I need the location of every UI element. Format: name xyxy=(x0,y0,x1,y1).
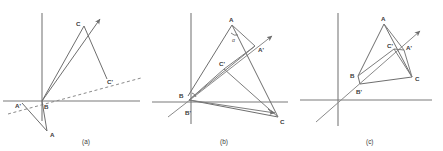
panel-c: A A' B B' C C' (c) xyxy=(300,13,432,146)
panel-b-label-A-prime: A' xyxy=(258,46,264,53)
panel-a-mirror-line xyxy=(8,78,141,114)
panel-c-segment-B-Cprime xyxy=(358,49,394,76)
panel-b-segment-B-Cprime xyxy=(189,69,224,100)
panel-a-label-B: B xyxy=(44,103,49,110)
panel-c-segment-C-Bprime xyxy=(360,77,412,84)
panel-a-segment-C-Cprime xyxy=(84,26,107,79)
panel-b-segment-A-C xyxy=(232,25,278,117)
panel-a-caption: (a) xyxy=(82,138,90,146)
panel-c-label-B-prime: B' xyxy=(356,88,362,95)
panel-c-label-A-prime: A' xyxy=(406,44,412,51)
figure-container: A A' B C C' (a) α A A' xyxy=(0,0,443,151)
panel-b-segment-B-A xyxy=(188,25,232,96)
panel-a-label-C-prime: C' xyxy=(107,78,113,85)
panel-b-label-C-prime: C' xyxy=(219,60,225,67)
panel-c-segment-Cprime-Aprime xyxy=(394,49,404,50)
panel-b: α A A' B B' C C' (b) xyxy=(152,13,288,146)
panel-b-segment-Cprime-Aprime xyxy=(224,46,255,69)
panel-a-reflection-ray xyxy=(42,19,100,101)
panel-b-label-A: A xyxy=(229,16,234,23)
panel-a-label-C: C xyxy=(76,20,81,27)
panel-a-label-A: A xyxy=(50,131,55,138)
panel-c-caption: (c) xyxy=(366,138,373,146)
panel-c-label-C: C xyxy=(415,75,420,82)
panel-c-segment-B-A xyxy=(358,24,384,76)
panel-b-angle-label-alpha: α xyxy=(232,37,236,43)
panel-b-label-C: C xyxy=(280,118,285,125)
panel-a-label-A-prime: A' xyxy=(15,102,21,109)
panel-c-label-C-prime: C' xyxy=(387,42,393,49)
panel-c-mirror-line xyxy=(316,31,420,122)
panel-b-caption: (b) xyxy=(220,138,228,146)
geometry-figure: A A' B C C' (a) α A A' xyxy=(0,0,443,151)
panel-a-segment-B-C xyxy=(42,26,84,101)
panel-c-segment-Cprime-C xyxy=(394,49,412,77)
panel-b-segment-B-Aprime xyxy=(189,46,255,100)
panel-a: A A' B C C' (a) xyxy=(3,13,141,146)
panel-b-label-B: B xyxy=(179,92,184,99)
panel-c-label-B: B xyxy=(350,72,355,79)
panel-c-segment-Bprime-B xyxy=(358,76,360,84)
panel-b-segment-C-B xyxy=(189,100,278,117)
panel-b-label-B-prime: B' xyxy=(185,109,191,116)
panel-c-label-A: A xyxy=(381,15,386,22)
